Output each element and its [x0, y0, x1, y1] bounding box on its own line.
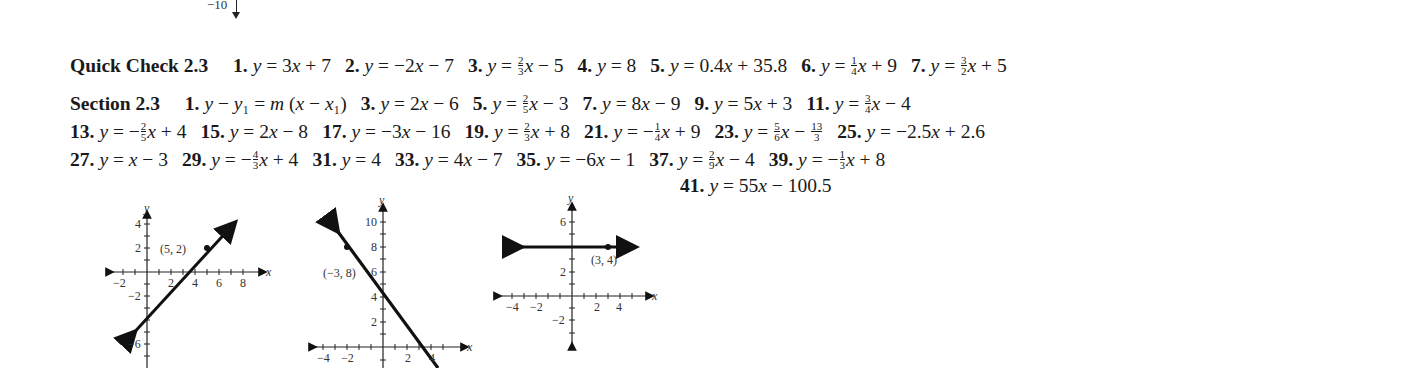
answer-item: 35.y = −6x − 1	[517, 149, 636, 170]
point-label: (−3, 8)	[323, 266, 356, 280]
answer-equation: y = 5x + 3	[714, 93, 792, 114]
answer-equation: y = 3x + 7	[253, 55, 331, 76]
answer-number: 17.	[322, 121, 346, 142]
fraction: 14	[655, 121, 661, 142]
svg-text:6: 6	[560, 215, 566, 229]
answer-item: 17.y = −3x − 16	[322, 121, 450, 142]
answer-equation: y = −43x + 4	[211, 149, 298, 170]
answer-item: 1.y − y₁ = m (x − x₁)	[185, 93, 347, 114]
fraction: 34	[865, 93, 871, 114]
fraction: 23	[518, 55, 524, 76]
answer-equation: y = 56x − 133	[744, 121, 823, 142]
answer-number: 11.	[806, 93, 829, 114]
answer-equation: y = −3x − 16	[352, 121, 451, 142]
answer-equation: y = −14x + 9	[613, 121, 700, 142]
section-answers-4: 41.y = 55x − 100.5	[680, 174, 846, 198]
answer-item: 5.y = 0.4x + 35.8	[650, 55, 787, 76]
svg-text:8: 8	[240, 276, 246, 290]
x-axis-label: x	[466, 340, 473, 354]
x-axis-label: x	[265, 265, 272, 279]
y-axis-label: y	[143, 201, 150, 215]
svg-text:4: 4	[429, 351, 435, 365]
svg-text:4: 4	[192, 276, 198, 290]
answer-item: 25.y = −2.5x + 2.6	[837, 121, 985, 142]
section-heading: Section 2.3	[70, 93, 160, 114]
graph-answer-27: y x (5, 2) −2 2 4 6 8 4 2 −2 −6	[100, 192, 280, 368]
y-axis-label: y	[567, 191, 574, 205]
answer-item: 4.y = 8	[578, 55, 637, 76]
svg-text:4: 4	[135, 217, 141, 231]
fraction: 43	[253, 149, 259, 170]
svg-text:6: 6	[371, 265, 377, 279]
section-answers-2: 13.y = −25x + 415.y = 2x − 817.y = −3x −…	[70, 120, 999, 144]
fraction: 133	[811, 121, 822, 142]
answer-equation: y = −2.5x + 2.6	[867, 121, 986, 142]
answer-item: 33.y = 4x − 7	[395, 149, 503, 170]
answer-equation: y = 8x − 9	[602, 93, 680, 114]
answer-equation: y = x − 3	[99, 149, 168, 170]
answer-item: 27.y = x − 3	[70, 149, 168, 170]
graph-fragment-label: −10	[207, 0, 227, 13]
answer-item: 5.y = 25x − 3	[473, 93, 569, 114]
answer-item: 1.y = 3x + 7	[233, 55, 331, 76]
svg-text:2: 2	[560, 265, 566, 279]
svg-text:−2: −2	[113, 276, 126, 290]
answer-item: 6.y = 14x + 9	[801, 55, 897, 76]
answer-number: 37.	[649, 149, 673, 170]
answer-number: 41.	[680, 175, 704, 196]
svg-text:−2: −2	[530, 300, 543, 314]
answer-equation: y = 25x − 3	[492, 93, 568, 114]
answer-item: 41.y = 55x − 100.5	[680, 175, 832, 196]
graph-answer-29: y x (−3, 8) −4 −2 2 4 10 8 6 4 2	[305, 192, 480, 368]
answer-equation: y = 55x − 100.5	[709, 175, 831, 196]
answer-equation: y = −6x − 1	[546, 149, 635, 170]
answer-number: 2.	[345, 55, 360, 76]
answer-equation: y = 0.4x + 35.8	[670, 55, 787, 76]
answer-item: 11.y = 34x − 4	[806, 93, 910, 114]
answer-equation: y = 8	[597, 55, 636, 76]
section-line-1: Section 2.3 1.y − y₁ = m (x − x₁)3.y = 2…	[70, 92, 925, 116]
fraction: 14	[851, 55, 857, 76]
svg-text:2: 2	[135, 241, 141, 255]
answer-equation: y = 23x + 8	[494, 121, 570, 142]
svg-text:−4: −4	[317, 351, 330, 365]
answer-item: 21.y = −14x + 9	[584, 121, 700, 142]
x-axis-label: x	[651, 289, 658, 303]
fraction: 25	[523, 93, 529, 114]
answer-number: 3.	[468, 55, 483, 76]
answer-number: 33.	[395, 149, 419, 170]
svg-text:8: 8	[371, 240, 377, 254]
answer-equation: y = −13x + 8	[798, 149, 885, 170]
svg-text:2: 2	[405, 351, 411, 365]
answer-equation: y = −2x − 7	[365, 55, 454, 76]
answer-item: 15.y = 2x − 8	[200, 121, 308, 142]
quick-check-heading: Quick Check 2.3	[70, 55, 208, 76]
answer-number: 21.	[584, 121, 608, 142]
answer-equation: y = −25x + 4	[99, 121, 186, 142]
fraction: 13	[840, 149, 846, 170]
answer-number: 4.	[578, 55, 593, 76]
fraction: 23	[524, 121, 530, 142]
quick-check-answers: 1.y = 3x + 72.y = −2x − 73.y = 23x − 54.…	[233, 55, 1021, 76]
svg-text:4: 4	[616, 300, 622, 314]
answer-item: 29.y = −43x + 4	[182, 149, 298, 170]
answer-equation: y = 14x + 9	[821, 55, 897, 76]
axis-arrow-icon	[236, 0, 239, 14]
answer-number: 7.	[582, 93, 597, 114]
answer-equation: y = 29x − 4	[679, 149, 755, 170]
quick-check-line: Quick Check 2.3 1.y = 3x + 72.y = −2x − …	[70, 54, 1021, 78]
answer-equation: y = 4x − 7	[424, 149, 502, 170]
y-axis-label: y	[378, 193, 385, 207]
answer-equation: y = 2x − 6	[380, 93, 458, 114]
answer-item: 2.y = −2x − 7	[345, 55, 454, 76]
answer-item: 7.y = 8x − 9	[582, 93, 680, 114]
svg-text:6: 6	[216, 276, 222, 290]
answer-item: 9.y = 5x + 3	[694, 93, 792, 114]
answer-number: 15.	[200, 121, 224, 142]
fraction: 32	[961, 55, 967, 76]
answer-number: 35.	[517, 149, 541, 170]
svg-text:2: 2	[371, 315, 377, 329]
point-label: (3, 4)	[591, 253, 617, 267]
answer-item: 3.y = 23x − 5	[468, 55, 564, 76]
fraction: 56	[774, 121, 780, 142]
